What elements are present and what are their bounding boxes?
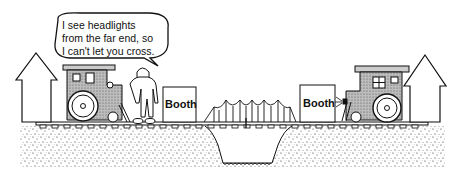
ground — [20, 126, 445, 168]
speech-line-3: I can't let you cross. — [62, 45, 174, 58]
left-booth-label: Booth — [165, 98, 197, 110]
right-train — [335, 66, 409, 122]
headlight-beam-icon — [335, 97, 342, 107]
speech-line-2: from the far end, so — [62, 32, 174, 45]
left-train — [63, 65, 130, 122]
left-house — [16, 53, 57, 122]
right-booth-label: Booth — [303, 97, 335, 109]
booth-attendant — [130, 68, 158, 124]
right-house — [404, 55, 446, 122]
speech-line-1: I see headlights — [62, 19, 174, 32]
speech-bubble-text: I see headlights from the far end, so I … — [62, 19, 174, 58]
